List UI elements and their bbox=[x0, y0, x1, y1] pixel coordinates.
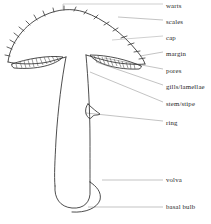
leader-stem bbox=[90, 72, 163, 102]
leader-gills bbox=[96, 62, 163, 85]
label-gills-lamellae: gills/lamellae bbox=[166, 83, 205, 91]
label-volva: volva bbox=[166, 176, 182, 184]
leader-pores bbox=[104, 58, 163, 69]
leader-cap bbox=[112, 36, 163, 40]
label-scales: scales bbox=[166, 18, 183, 26]
gills-right-outline bbox=[90, 55, 141, 69]
mushroom-body bbox=[8, 10, 145, 213]
leader-warts bbox=[63, 4, 163, 9]
label-pores: pores bbox=[166, 67, 181, 75]
label-cap: cap bbox=[166, 34, 176, 42]
label-ring: ring bbox=[166, 119, 178, 127]
label-warts: warts bbox=[166, 2, 181, 10]
label-margin: margin bbox=[166, 50, 186, 58]
leader-margin bbox=[140, 52, 163, 56]
leader-ring bbox=[86, 113, 163, 121]
ring-outline bbox=[86, 104, 100, 118]
mushroom-anatomy-diagram: warts scales cap margin pores gills/lame… bbox=[0, 0, 211, 224]
mushroom-line-drawing bbox=[0, 0, 211, 224]
basal-bulb-outline bbox=[55, 182, 90, 208]
cap-warts bbox=[5, 6, 145, 59]
leader-scales bbox=[118, 17, 163, 20]
label-stem-stipe: stem/stipe bbox=[166, 100, 195, 108]
leader-lines bbox=[63, 4, 163, 207]
stem-left-outline bbox=[55, 57, 66, 186]
label-basal-bulb: basal bulb bbox=[166, 203, 195, 211]
